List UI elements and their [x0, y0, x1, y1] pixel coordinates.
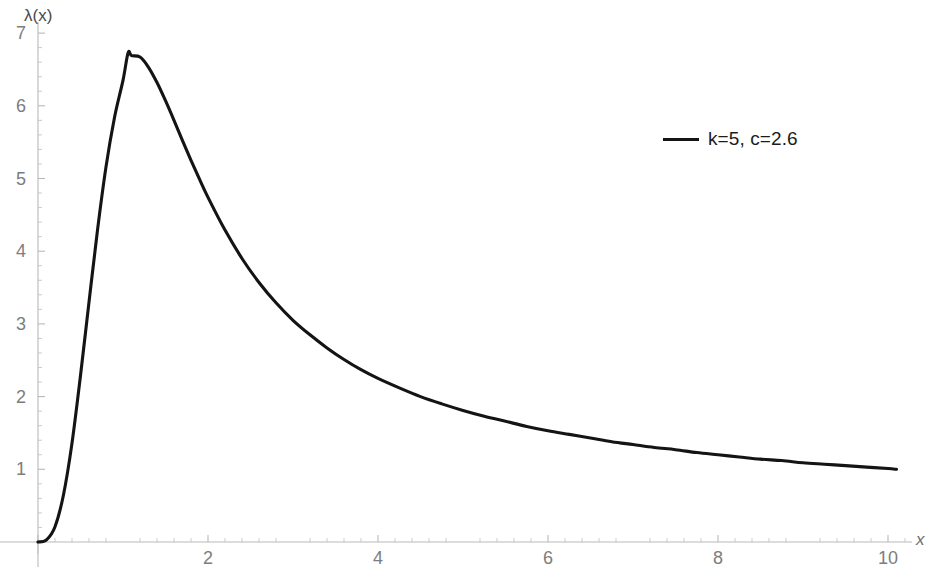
- x-axis-tick-labels: 246810: [203, 548, 898, 567]
- x-tick-label: 4: [373, 548, 383, 567]
- chart-figure: 246810 1234567 λ(x) x k=5, c=2.6: [0, 0, 932, 567]
- legend-line-swatch: [663, 138, 699, 141]
- legend: k=5, c=2.6: [663, 128, 798, 150]
- plot-area: 246810 1234567: [0, 0, 932, 567]
- x-axis-major-ticks: [38, 535, 888, 554]
- y-tick-label: 1: [16, 459, 26, 479]
- y-tick-label: 2: [16, 387, 26, 407]
- y-axis-label-text: λ(x): [24, 6, 52, 25]
- legend-entry-label: k=5, c=2.6: [708, 128, 798, 150]
- x-tick-label: 10: [878, 548, 898, 567]
- y-tick-label: 4: [16, 241, 26, 261]
- y-tick-label: 6: [16, 96, 26, 116]
- y-axis-major-ticks: [38, 33, 45, 542]
- y-tick-label: 7: [16, 23, 26, 43]
- x-tick-label: 6: [543, 548, 553, 567]
- y-tick-label: 3: [16, 314, 26, 334]
- x-tick-label: 2: [203, 548, 213, 567]
- y-axis-minor-ticks: [38, 48, 42, 528]
- y-tick-label: 5: [16, 169, 26, 189]
- x-axis-minor-ticks: [55, 538, 905, 542]
- x-axis-label-text: x: [916, 530, 925, 549]
- x-axis-label: x: [916, 530, 925, 550]
- x-tick-label: 8: [713, 548, 723, 567]
- y-axis-tick-labels: 1234567: [16, 23, 26, 479]
- y-axis-label: λ(x): [24, 6, 52, 26]
- data-series-line: [38, 51, 897, 542]
